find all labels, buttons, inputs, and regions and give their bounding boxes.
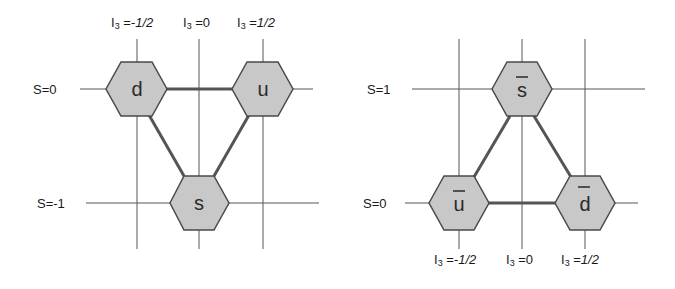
quark-node-u: u <box>232 62 293 116</box>
quark-node-d: d <box>106 62 167 116</box>
quark-label: d <box>579 193 590 215</box>
edge-sbar-ubar <box>474 116 510 177</box>
i3-label: I3 =1/2 <box>561 252 600 268</box>
quark-label: u <box>453 193 464 215</box>
i3-label: I3 =-1/2 <box>111 15 154 31</box>
strangeness-label: S=0 <box>363 196 387 211</box>
edge-u-s <box>214 115 249 176</box>
antiquark-triplet-diagram: s u d I3 =-1/2 I3 =0 I3 =1/2 S=1 S=0 <box>363 39 645 268</box>
i3-label: I3 =0 <box>506 252 533 268</box>
quark-node-s: s <box>170 176 229 230</box>
edge-d-s <box>149 115 184 176</box>
edge-sbar-dbar <box>534 116 571 177</box>
strangeness-label: S=1 <box>367 82 391 97</box>
su3-triplet-diagrams: d u s I3 =-1/2 I3 =0 I3 =1/2 S=0 S=-1 <box>0 0 675 289</box>
antiquark-node-ubar: u <box>429 176 489 230</box>
strangeness-label: S=-1 <box>37 196 65 211</box>
i3-label: I3 =-1/2 <box>434 252 477 268</box>
quark-label: d <box>131 78 142 100</box>
strangeness-label: S=0 <box>33 82 57 97</box>
quark-triplet-diagram: d u s I3 =-1/2 I3 =0 I3 =1/2 S=0 S=-1 <box>33 15 319 249</box>
quark-label: s <box>517 79 527 101</box>
quark-label: u <box>257 78 268 100</box>
i3-label: I3 =1/2 <box>237 15 276 31</box>
i3-label: I3 =0 <box>183 15 210 31</box>
antiquark-node-dbar: d <box>555 176 615 230</box>
antiquark-node-sbar: s <box>492 62 552 116</box>
quark-label: s <box>194 192 204 214</box>
